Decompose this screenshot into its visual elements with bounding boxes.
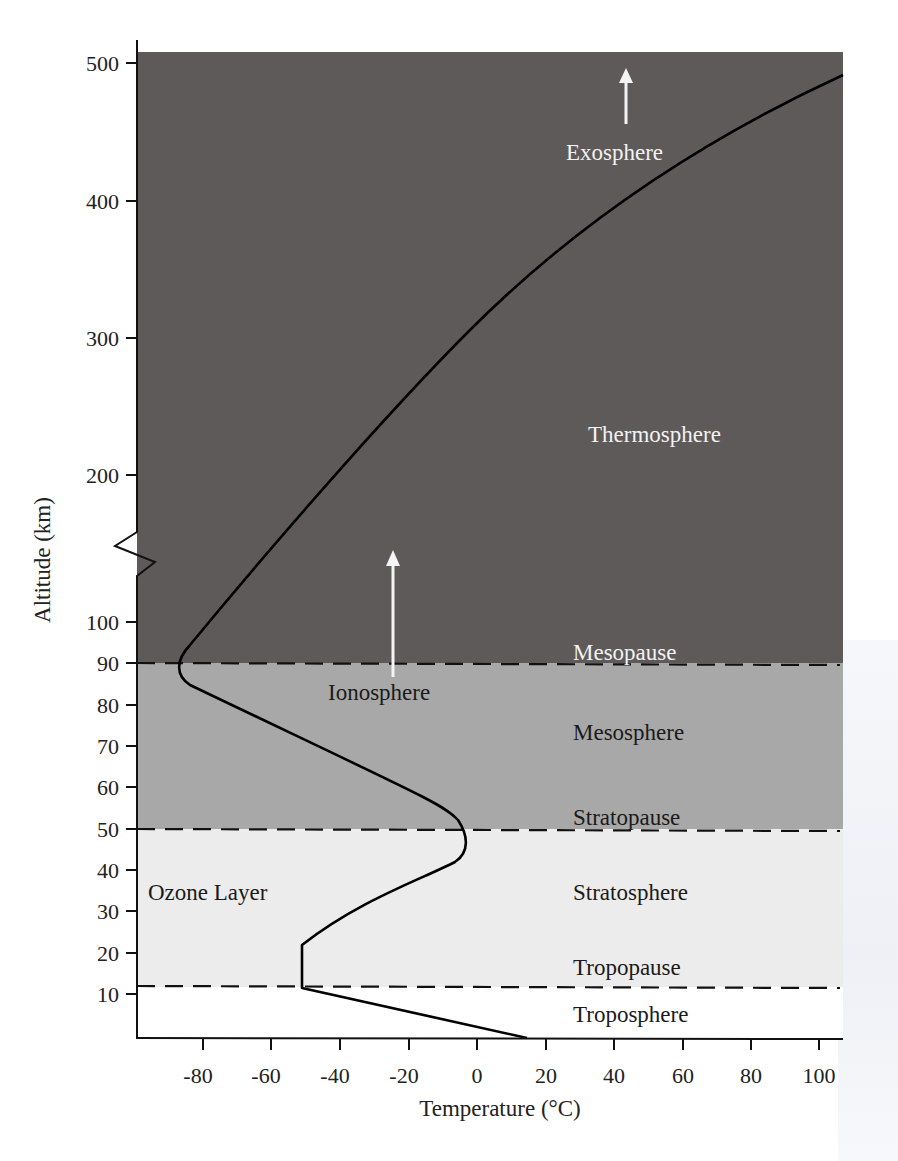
y-tick-10: 10	[97, 982, 119, 1007]
y-tick-200: 200	[86, 463, 119, 488]
y-tick-60: 60	[97, 775, 119, 800]
x-tick-100: 100	[803, 1063, 836, 1088]
ozone-layer-label: Ozone Layer	[148, 880, 268, 905]
y-tick-80: 80	[97, 693, 119, 718]
x-axis	[136, 1038, 843, 1050]
y-tick-20: 20	[97, 941, 119, 966]
x-tick-20: 20	[535, 1063, 557, 1088]
y-tick-300: 300	[86, 326, 119, 351]
mesopause-label: Mesopause	[573, 640, 676, 665]
ionosphere-label: Ionosphere	[328, 680, 430, 705]
x-tick--80: -80	[183, 1063, 212, 1088]
stratosphere-band	[137, 829, 843, 987]
x-tick--60: -60	[251, 1063, 280, 1088]
y-tick-70: 70	[97, 734, 119, 759]
x-tick-80: 80	[740, 1063, 762, 1088]
y-tick-400: 400	[86, 189, 119, 214]
y-tick-500: 500	[86, 51, 119, 76]
exosphere-label: Exosphere	[566, 140, 663, 165]
x-axis-title: Temperature (°C)	[419, 1096, 580, 1121]
x-tick-40: 40	[603, 1063, 625, 1088]
stratopause-label: Stratopause	[573, 805, 680, 830]
x-tick--20: -20	[389, 1063, 418, 1088]
x-tick-60: 60	[672, 1063, 694, 1088]
y-axis-title: Altitude (km)	[30, 497, 55, 623]
y-tick-100: 100	[86, 610, 119, 635]
thermosphere-label: Thermosphere	[588, 422, 721, 447]
thermosphere-band	[137, 52, 843, 663]
mesosphere-band	[137, 663, 843, 829]
y-tick-50: 50	[97, 817, 119, 842]
y-tick-labels: 500 400 300 200 100 90 80 70 60 50 40 30…	[86, 51, 119, 1007]
mesosphere-label: Mesosphere	[573, 720, 684, 745]
x-tick--40: -40	[320, 1063, 349, 1088]
y-tick-30: 30	[97, 899, 119, 924]
x-tick-labels: -80 -60 -40 -20 0 20 40 60 80 100	[183, 1063, 835, 1088]
y-tick-90: 90	[97, 651, 119, 676]
atmosphere-chart: Exosphere Thermosphere Mesopause Ionosph…	[0, 0, 898, 1161]
tropopause-label: Tropopause	[573, 955, 681, 980]
y-tick-40: 40	[97, 858, 119, 883]
troposphere-label: Troposphere	[573, 1002, 688, 1027]
x-tick-0: 0	[472, 1063, 483, 1088]
stratosphere-label: Stratosphere	[573, 880, 688, 905]
